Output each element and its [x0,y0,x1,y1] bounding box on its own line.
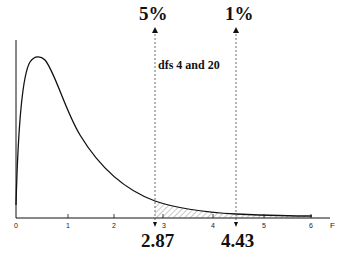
tick-label-3: 3 [162,222,166,229]
tick-label-0: 0 [14,222,18,229]
f-density-curve [16,57,312,216]
tick-label-4: 4 [211,222,215,229]
dfs-annotation: dfs 4 and 20 [158,58,220,73]
tick-label-2: 2 [112,222,116,229]
crit-value-1pct: 4.43 [221,230,254,252]
tick-label-1: 1 [66,222,70,229]
f-distribution-chart [0,0,345,257]
arrow-down-5pct [153,222,157,227]
arrow-down-1pct [234,222,238,227]
tick-label-5: 5 [262,222,266,229]
tick-label-6: 6 [309,222,313,229]
label-5pct: 5% [139,3,168,25]
crit-value-5pct: 2.87 [141,230,174,252]
axis-label-f: F [330,221,335,230]
arrow-up-1pct [233,27,239,33]
arrow-up-5pct [152,27,158,33]
label-1pct: 1% [225,3,254,25]
